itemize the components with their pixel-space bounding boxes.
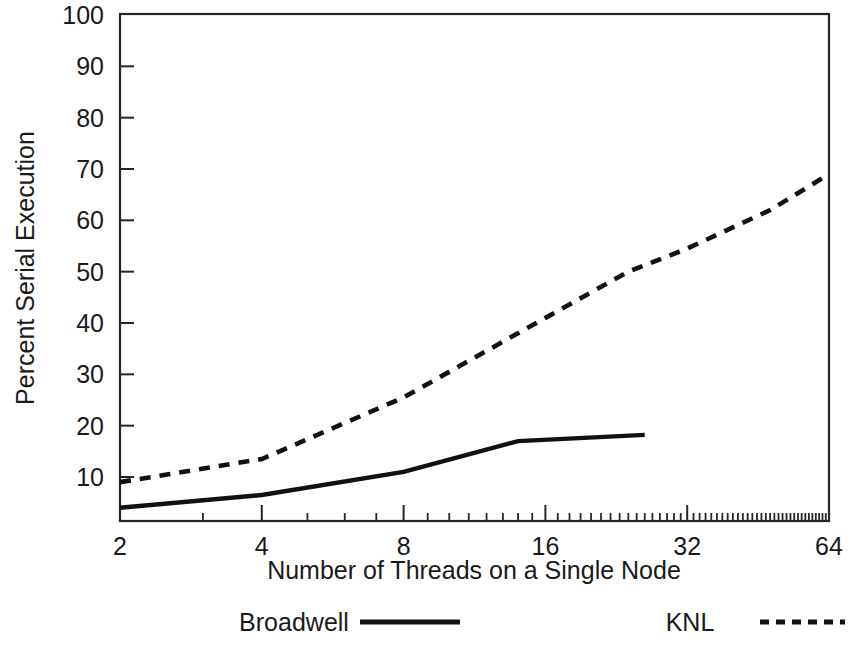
y-tick-label: 70 (76, 155, 104, 183)
legend-label-knl: KNL (666, 608, 715, 636)
plot-frame (120, 14, 829, 521)
series-line-broadwell (120, 435, 645, 508)
legend-label-broadwell: Broadwell (239, 608, 349, 636)
y-tick-label: 60 (76, 206, 104, 234)
y-tick-label: 40 (76, 309, 104, 337)
chart-container: 102030405060708090100 248163264 Number o… (0, 0, 854, 648)
x-tick-label: 64 (815, 532, 843, 560)
x-axis-title: Number of Threads on a Single Node (267, 556, 681, 584)
y-tick-label: 100 (62, 1, 104, 29)
y-tick-label: 10 (76, 463, 104, 491)
y-tick-label: 20 (76, 412, 104, 440)
x-axis-ticks (203, 505, 826, 521)
x-tick-label: 2 (113, 532, 127, 560)
y-tick-label: 90 (76, 52, 104, 80)
y-axis-ticks (120, 66, 134, 477)
data-series-group (120, 174, 829, 508)
y-tick-label: 30 (76, 360, 104, 388)
percent-serial-execution-line-chart: 102030405060708090100 248163264 Number o… (0, 0, 854, 648)
series-line-knl (120, 174, 829, 482)
y-tick-label: 50 (76, 258, 104, 286)
chart-legend: BroadwellKNL (239, 608, 845, 636)
y-axis-title: Percent Serial Execution (11, 131, 39, 405)
y-axis-tick-labels: 102030405060708090100 (62, 1, 104, 491)
y-tick-label: 80 (76, 104, 104, 132)
